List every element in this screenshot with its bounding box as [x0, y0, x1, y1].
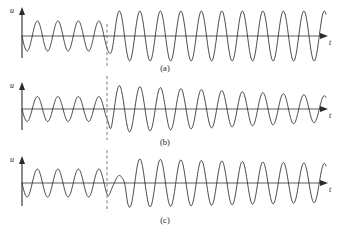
y-axis-label-b: u	[10, 81, 14, 90]
panel-a: u t (a)	[0, 0, 339, 76]
x-axis-label-b: t	[329, 111, 332, 120]
panel-b-plot: u t (b)	[0, 76, 339, 150]
x-axis-arrow-b	[320, 106, 328, 112]
x-axis-arrow-c	[320, 180, 328, 186]
panel-c: u t (c)	[0, 150, 339, 228]
panel-caption-b: (b)	[160, 137, 170, 147]
y-axis-arrow-b	[19, 82, 25, 90]
y-axis-arrow-a	[19, 7, 25, 15]
x-axis-label-c: t	[329, 185, 332, 194]
panel-caption-a: (a)	[160, 63, 170, 73]
y-axis-label-c: u	[10, 155, 14, 164]
panel-caption-c: (c)	[160, 215, 170, 225]
panel-a-plot: u t (a)	[0, 0, 339, 76]
y-axis-arrow-c	[19, 156, 25, 164]
x-axis-arrow-a	[320, 33, 328, 39]
panel-b: u t (b)	[0, 76, 339, 150]
y-axis-label-a: u	[10, 6, 14, 15]
x-axis-label-a: t	[329, 38, 332, 47]
panel-c-plot: u t (c)	[0, 150, 339, 228]
waveform-figure: u t (a) u t (b)	[0, 0, 339, 228]
